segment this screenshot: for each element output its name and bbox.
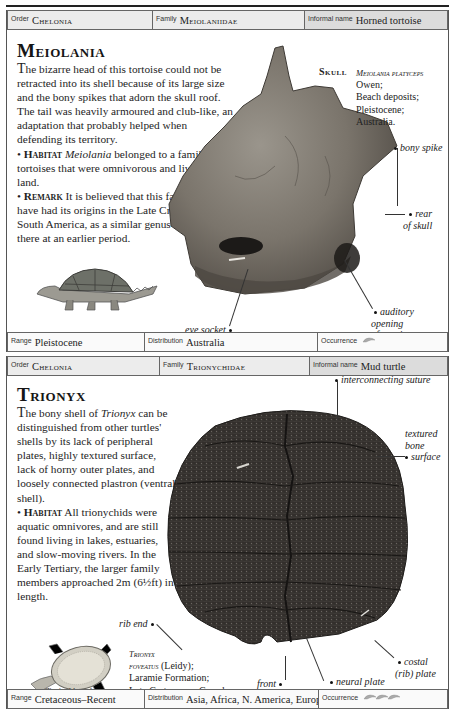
order-value: Chelonia bbox=[32, 361, 73, 372]
distribution-cell: Distribution Asia, Africa, N. America, E… bbox=[145, 690, 319, 708]
shell-fossil-photo bbox=[165, 406, 425, 662]
family-label: Family bbox=[163, 361, 184, 368]
genus-title: Trionyx bbox=[17, 384, 86, 406]
occurrence-label: Occurrence bbox=[321, 337, 357, 344]
distribution-label: Distribution bbox=[148, 337, 183, 344]
remark-label: Remark bbox=[24, 190, 63, 202]
annotation-bony-spike: bony spike bbox=[391, 142, 443, 154]
leader-line bbox=[337, 380, 338, 420]
fossil-card-trionyx: Order Chelonia Family Trionychidae Infor… bbox=[6, 356, 449, 709]
occurrence-cell: Occurrence bbox=[319, 690, 447, 708]
annotation-neural-plate: neural plate bbox=[327, 676, 385, 688]
annotation-interconnecting-suture: interconnecting suture bbox=[332, 374, 431, 386]
informal-name-value: Horned tortoise bbox=[356, 15, 422, 26]
habitat-label: Habitat bbox=[24, 506, 62, 518]
range-value: Cretaceous–Recent bbox=[35, 694, 116, 705]
family-label: Family bbox=[156, 15, 177, 22]
fossil-shell-icon bbox=[363, 694, 401, 700]
informal-name-cell: Informal name Horned tortoise bbox=[305, 11, 447, 29]
leader-line bbox=[377, 456, 405, 457]
leader-line bbox=[397, 148, 398, 206]
genus-title: Meiolania bbox=[17, 40, 105, 62]
classification-header: Order Chelonia Family Meiolaniidae Infor… bbox=[7, 10, 448, 30]
order-label: Order bbox=[11, 361, 29, 368]
annotation-textured-bone-surface: texturedbonesurface bbox=[405, 428, 440, 463]
family-cell: Family Trionychidae bbox=[160, 357, 310, 375]
distribution-label: Distribution bbox=[148, 694, 183, 701]
informal-name-value: Mud turtle bbox=[361, 361, 406, 372]
annotation-rear-of-skull: rearof skull bbox=[403, 208, 432, 231]
order-label: Order bbox=[11, 15, 29, 22]
range-cell: Range Pleistocene bbox=[8, 333, 145, 351]
occurrence-label: Occurrence bbox=[322, 694, 358, 701]
range-label: Range bbox=[11, 694, 32, 701]
order-cell: Order Chelonia bbox=[8, 357, 160, 375]
distribution-value: Asia, Africa, N. America, Europe bbox=[186, 694, 319, 705]
fossil-shell-icon bbox=[362, 337, 376, 343]
family-value: Meiolaniidae bbox=[180, 15, 238, 26]
annotation-costal-rib-plate: costal(rib) plate bbox=[395, 656, 436, 679]
fossil-card-meiolania: Order Chelonia Family Meiolaniidae Infor… bbox=[6, 10, 449, 352]
classification-header: Order Chelonia Family Trionychidae Infor… bbox=[7, 356, 448, 376]
order-value: Chelonia bbox=[32, 15, 73, 26]
informal-name-cell: Informal name Mud turtle bbox=[310, 357, 447, 375]
informal-name-label: Informal name bbox=[308, 15, 353, 22]
annotation-rib-end: rib end bbox=[119, 618, 157, 630]
range-label: Range bbox=[11, 337, 32, 344]
page-top-rule bbox=[6, 5, 449, 7]
informal-name-label: Informal name bbox=[313, 361, 358, 368]
range-cell: Range Cretaceous–Recent bbox=[8, 690, 145, 708]
family-value: Trionychidae bbox=[187, 361, 246, 372]
occurrence-cell: Occurrence bbox=[318, 333, 447, 351]
tortoise-illustration bbox=[29, 264, 161, 312]
annotation-front: front bbox=[257, 678, 285, 690]
range-value: Pleistocene bbox=[35, 337, 83, 348]
description-text: The bony shell of Trionyx can be disting… bbox=[17, 406, 177, 603]
leader-line bbox=[385, 214, 405, 215]
distribution-cell: Distribution Australia bbox=[145, 333, 318, 351]
specimen-label: Skull bbox=[319, 66, 347, 77]
order-cell: Order Chelonia bbox=[8, 11, 153, 29]
leader-line bbox=[285, 656, 286, 680]
distribution-value: Australia bbox=[186, 337, 225, 348]
family-cell: Family Meiolaniidae bbox=[153, 11, 305, 29]
habitat-label: Habitat bbox=[24, 148, 62, 160]
scientific-name: Meiolania platyceps Owen; Beach deposits… bbox=[356, 67, 448, 128]
distribution-footer: Range Cretaceous–Recent Distribution Asi… bbox=[7, 689, 448, 709]
distribution-footer: Range Pleistocene Distribution Australia… bbox=[7, 332, 448, 352]
